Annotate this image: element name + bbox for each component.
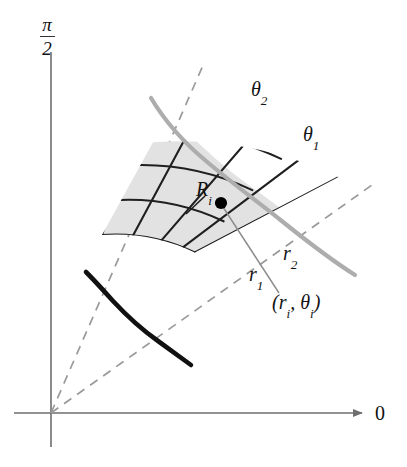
label-theta-1: θ1: [303, 124, 319, 144]
r-2-subscript: 2: [291, 257, 298, 272]
label-sample-point: (ri, θi): [272, 292, 320, 312]
fraction-bar: [40, 36, 55, 37]
axis-label-pi-over-2: π 2: [32, 14, 62, 59]
pi-numerator: π: [32, 14, 62, 35]
theta-2-symbol: θ: [251, 78, 261, 100]
subregion-subscript: i: [208, 193, 212, 208]
sample-r-subscript: i: [286, 306, 290, 321]
grid-arc-r-outer: [153, 61, 339, 97]
label-r-2: r2: [283, 243, 297, 263]
r-1-symbol: r: [249, 263, 257, 285]
theta-1-symbol: θ: [303, 123, 313, 145]
r-1-subscript: 1: [257, 278, 264, 293]
sample-theta-subscript: i: [310, 306, 314, 321]
axis-label-zero: 0: [375, 403, 385, 423]
paren-open: (: [272, 291, 279, 313]
subregion-symbol: R: [196, 178, 208, 200]
label-r-1: r1: [249, 264, 263, 284]
label-subregion-R-i: Ri: [196, 179, 212, 199]
diagram-canvas: [0, 0, 407, 467]
polar-rectangle-figure: π 2 0 θ2 θ1 r2 r1 Ri (ri, θi): [0, 0, 407, 467]
theta-1-subscript: 1: [313, 138, 320, 153]
pi-denominator: 2: [32, 38, 62, 59]
r-2-symbol: r: [283, 242, 291, 264]
theta-2-subscript: 2: [261, 93, 268, 108]
axes-group: [14, 52, 362, 447]
region-boundary-curve-black: [86, 272, 191, 365]
paren-close: ): [314, 291, 321, 313]
sample-theta-symbol: θ: [300, 291, 310, 313]
label-theta-2: θ2: [251, 79, 267, 99]
sample-point-dot: [215, 197, 227, 209]
sample-comma: ,: [290, 291, 295, 313]
